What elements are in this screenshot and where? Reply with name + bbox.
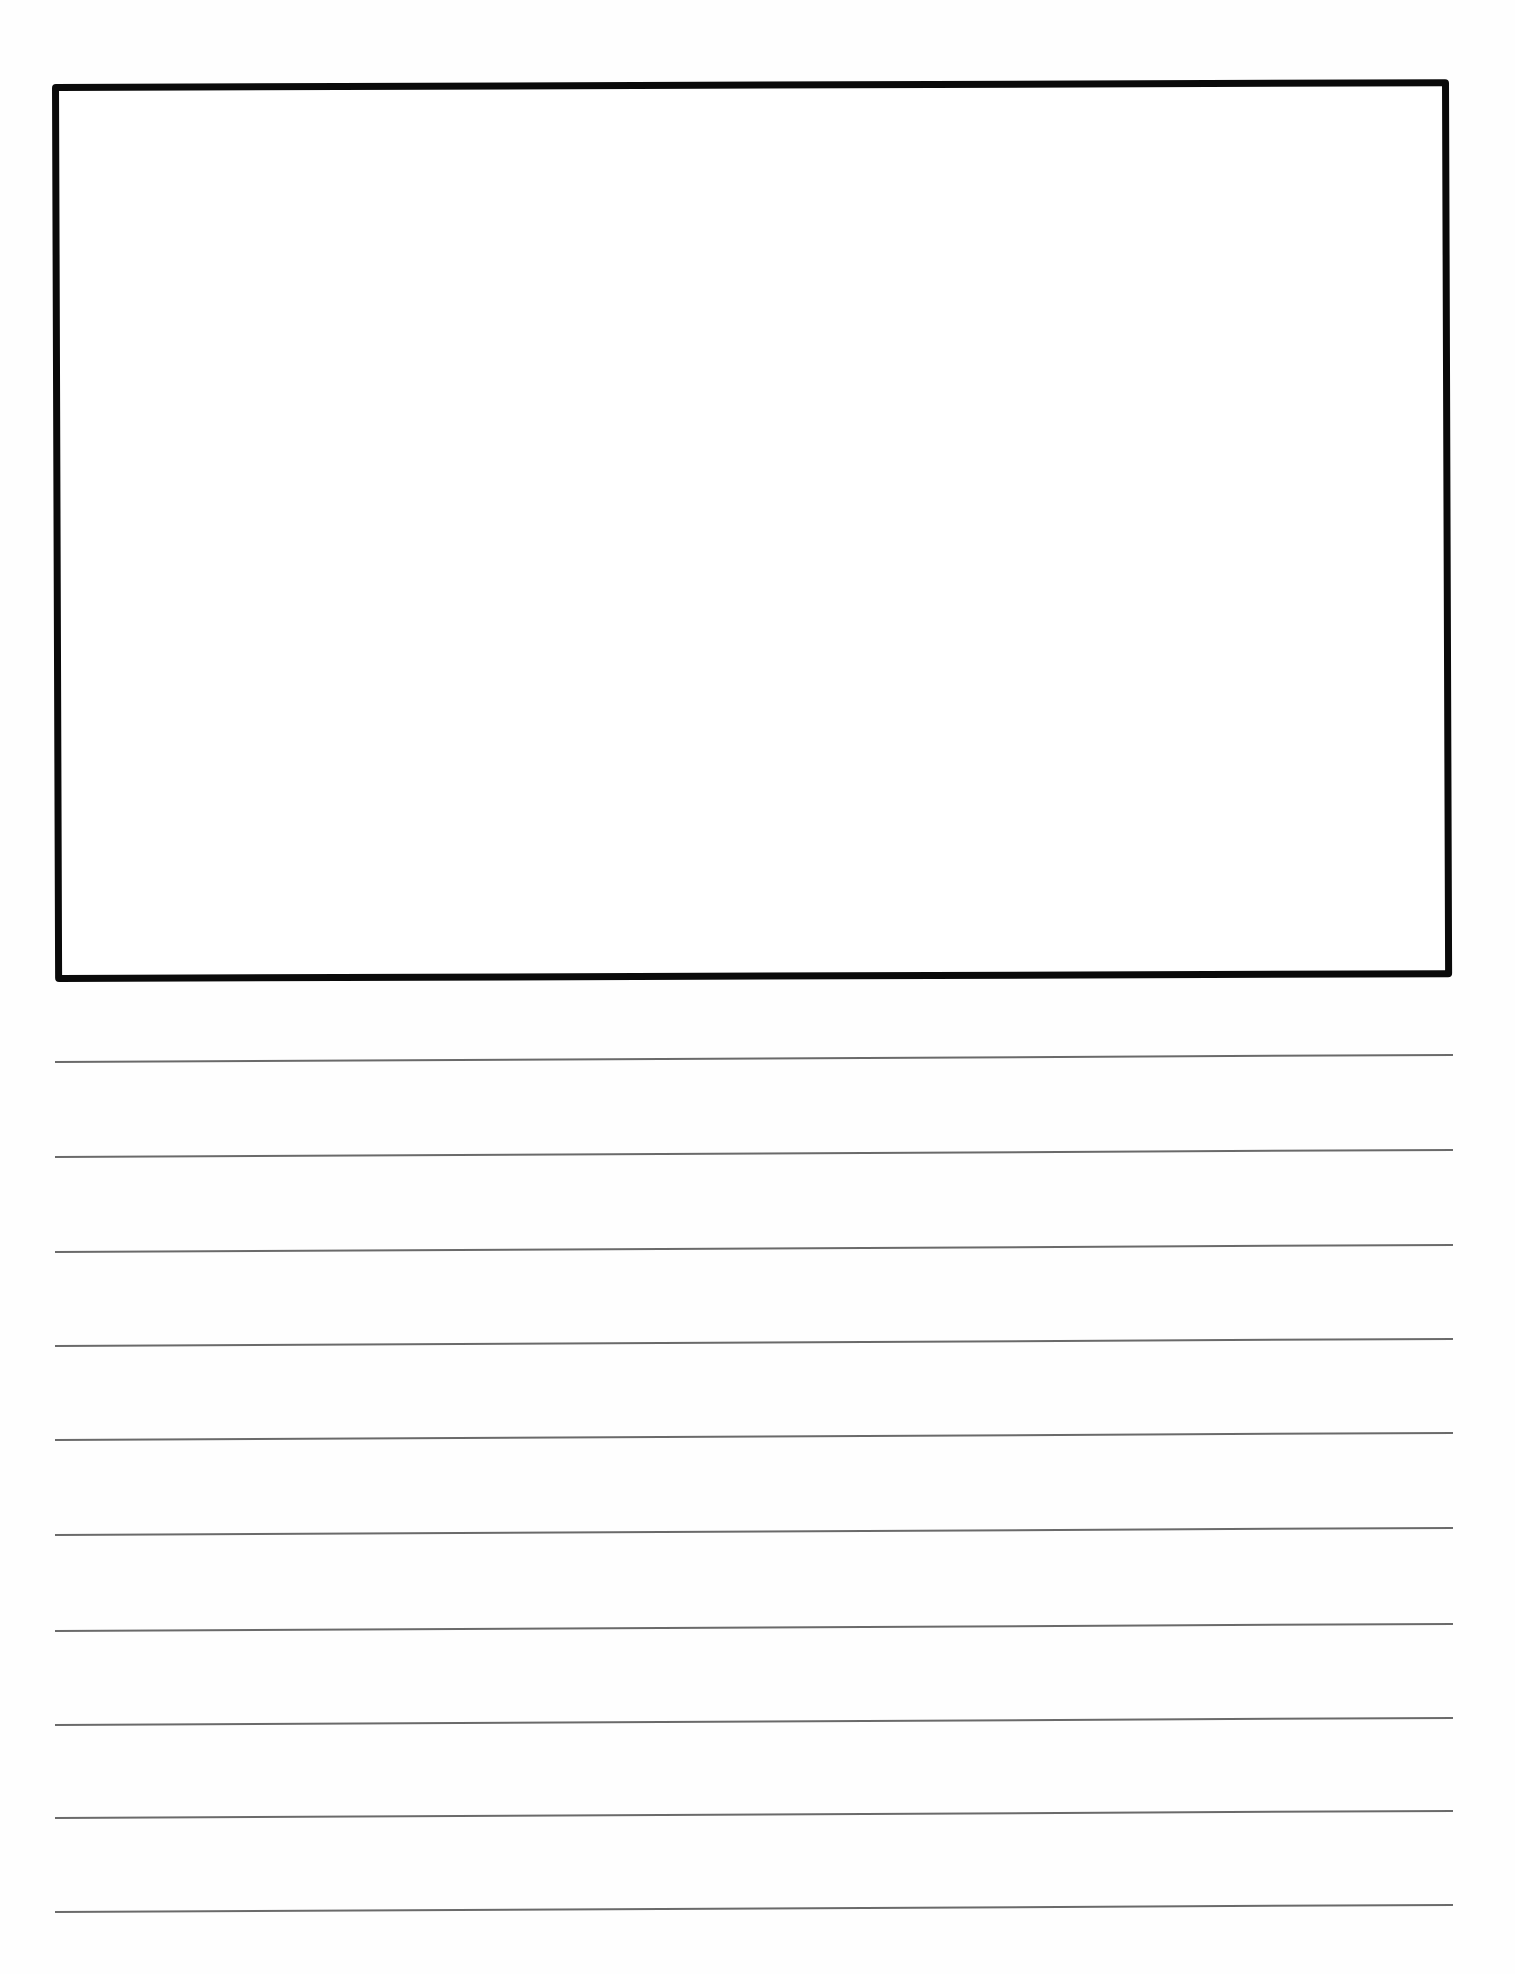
writing-lines [0, 0, 1515, 1974]
writing-line-8[interactable] [55, 1717, 1453, 1726]
writing-line-1[interactable] [55, 1054, 1453, 1063]
writing-line-5[interactable] [55, 1432, 1453, 1441]
writing-line-7[interactable] [55, 1623, 1453, 1632]
writing-line-6[interactable] [55, 1527, 1453, 1536]
writing-line-2[interactable] [55, 1149, 1453, 1158]
writing-line-4[interactable] [55, 1338, 1453, 1347]
writing-line-3[interactable] [55, 1244, 1453, 1253]
writing-line-9[interactable] [55, 1810, 1453, 1819]
writing-line-10[interactable] [55, 1904, 1453, 1913]
worksheet-page [0, 0, 1515, 1974]
